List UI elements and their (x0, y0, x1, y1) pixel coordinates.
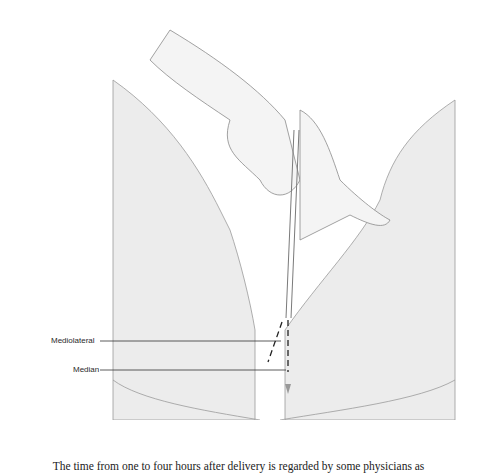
body-text-line: The time from one to four hours after de… (0, 460, 477, 472)
illustration-drawing (0, 0, 477, 420)
mediolateral-incision-line (268, 322, 282, 362)
median-label: Median (73, 365, 99, 374)
episiotomy-illustration: Mediolateral Median (0, 0, 477, 420)
mediolateral-label: Mediolateral (51, 336, 95, 345)
